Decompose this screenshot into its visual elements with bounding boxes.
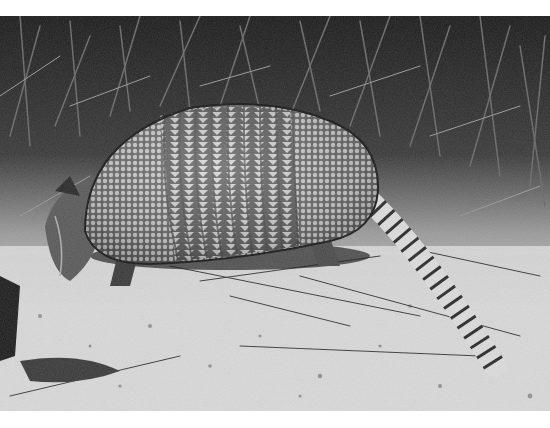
- grain-overlay: [0, 16, 550, 411]
- photo-canvas: [0, 16, 550, 411]
- armadillo-photo: Nine-banded armadillo: [0, 16, 550, 411]
